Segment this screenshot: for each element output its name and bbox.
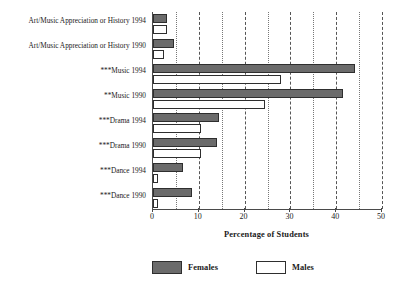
legend-swatch-males-icon <box>256 261 286 274</box>
bar-females <box>153 14 167 23</box>
x-tick-label: 40 <box>331 212 339 221</box>
bar-group <box>153 136 381 161</box>
x-axis-ticks: 01020304050 <box>152 212 381 226</box>
bar-females <box>153 89 343 98</box>
y-axis-label: ***Music 1994 <box>0 66 149 75</box>
bar-chart: Art/Music Appreciation or History 1994 A… <box>0 0 419 290</box>
bar-males <box>153 174 158 183</box>
y-axis-label: Art/Music Appreciation or History 1994 <box>0 16 149 25</box>
chart-legend: Females Males <box>152 256 392 278</box>
x-tick-label: 0 <box>150 212 154 221</box>
x-tick-label: 50 <box>377 212 385 221</box>
bar-males <box>153 75 281 84</box>
legend-swatch-females-icon <box>152 261 182 274</box>
x-tick-label: 10 <box>194 212 202 221</box>
bar-females <box>153 39 174 48</box>
bar-gap <box>153 197 381 199</box>
bar-females <box>153 163 183 172</box>
legend-item-females: Females <box>152 261 218 274</box>
y-axis-label: ***Drama 1990 <box>0 141 149 150</box>
gridline <box>382 12 383 209</box>
legend-label-females: Females <box>188 263 218 272</box>
y-axis-label: ***Dance 1990 <box>0 191 149 200</box>
bar-gap <box>153 172 381 174</box>
bar-males <box>153 199 158 208</box>
bar-females <box>153 188 192 197</box>
bar-females <box>153 64 355 73</box>
bar-group <box>153 161 381 186</box>
bar-males <box>153 149 201 158</box>
x-axis-title: Percentage of Students <box>152 230 381 239</box>
bar-males <box>153 124 201 133</box>
bar-males <box>153 25 167 34</box>
bar-group <box>153 86 381 111</box>
y-axis-label: ***Drama 1994 <box>0 116 149 125</box>
bar-females <box>153 113 219 122</box>
bar-group <box>153 12 381 37</box>
bar-group <box>153 37 381 62</box>
x-tick-label: 30 <box>285 212 293 221</box>
legend-label-males: Males <box>292 263 314 272</box>
bar-group <box>153 62 381 87</box>
bar-group <box>153 185 381 210</box>
bar-males <box>153 100 265 109</box>
bar-group <box>153 111 381 136</box>
bar-gap <box>153 23 381 25</box>
y-axis-label: ***Dance 1994 <box>0 166 149 175</box>
x-tick-label: 20 <box>240 212 248 221</box>
bar-gap <box>153 48 381 50</box>
bar-males <box>153 50 164 59</box>
y-axis-label: Art/Music Appreciation or History 1990 <box>0 41 149 50</box>
plot-area <box>152 12 381 210</box>
y-axis-label: **Music 1990 <box>0 91 149 100</box>
y-axis-labels: Art/Music Appreciation or History 1994 A… <box>0 12 149 210</box>
legend-item-males: Males <box>256 261 314 274</box>
bar-females <box>153 138 217 147</box>
